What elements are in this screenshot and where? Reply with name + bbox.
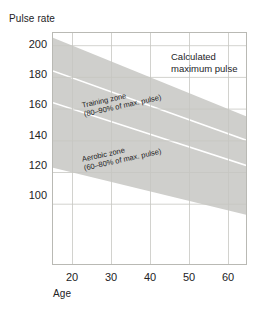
annotation-max-line1: Calculated — [171, 51, 238, 63]
annotation-max-line2: maximum pulse — [171, 63, 238, 75]
pulse-rate-chart-figure: Pulse rate Age 200 180 160 140 120 100 2… — [0, 0, 261, 310]
x-tick-40: 40 — [144, 271, 156, 283]
plot-area: Calculated maximum pulse Training zone (… — [52, 32, 247, 265]
annotation-calculated-maximum-pulse: Calculated maximum pulse — [171, 51, 238, 75]
x-tick-30: 30 — [105, 271, 117, 283]
x-tick-50: 50 — [183, 271, 195, 283]
x-tick-20: 20 — [66, 271, 78, 283]
x-tick-60: 60 — [222, 271, 234, 283]
